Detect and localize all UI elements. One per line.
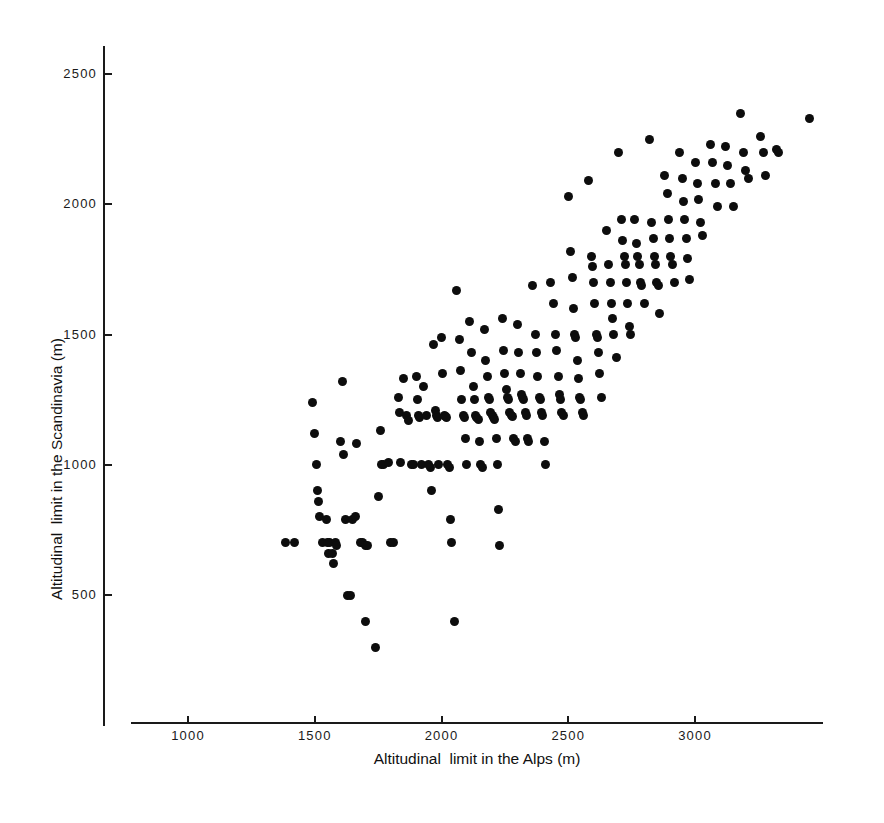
data-point [507,411,516,420]
data-point [361,617,370,626]
data-point [486,408,495,417]
data-point [570,330,579,339]
data-point [462,460,471,469]
data-point [500,369,509,378]
data-point [594,348,603,357]
data-point [678,174,687,183]
data-point [363,541,372,550]
data-point [556,395,565,404]
data-point [654,281,663,290]
data-point [394,393,403,402]
data-point [756,132,765,141]
y-tick-label: 1000 [37,457,97,472]
data-point [490,415,499,424]
data-point [664,215,673,224]
data-point [555,390,564,399]
data-point [517,390,526,399]
data-point [682,234,691,243]
data-point [604,260,613,269]
data-point [524,437,533,446]
data-point [361,541,370,550]
data-point [522,411,531,420]
data-point [546,278,555,287]
data-point [593,333,602,342]
data-point [446,515,455,524]
data-point [427,486,436,495]
data-point [632,239,641,248]
x-tick-3000 [694,716,696,723]
data-point [511,437,520,446]
data-point [623,299,632,308]
data-point [533,372,542,381]
data-point [636,278,645,287]
data-point [569,304,578,313]
data-point [476,460,485,469]
data-point [519,395,528,404]
data-point [328,549,337,558]
data-point [584,176,593,185]
data-point [541,460,550,469]
data-point [422,411,431,420]
data-point [551,330,560,339]
data-point [281,538,290,547]
data-point [470,395,479,404]
data-point [739,148,748,157]
data-point [606,278,615,287]
data-point [358,538,367,547]
data-point [374,492,383,501]
data-point [680,215,689,224]
y-tick-label: 2000 [37,196,97,211]
data-point [440,411,449,420]
data-point [324,549,333,558]
data-point [696,218,705,227]
data-point [424,460,433,469]
data-point [457,395,466,404]
data-point [445,463,454,472]
data-point [685,275,694,284]
data-point [514,348,523,357]
data-point [693,179,702,188]
data-point [399,374,408,383]
data-point [509,434,518,443]
data-point [564,192,573,201]
data-point [621,260,630,269]
data-point [650,252,659,261]
data-point [557,408,566,417]
data-point [389,538,398,547]
data-point [568,273,577,282]
data-point [723,161,732,170]
y-tick-2500 [105,73,112,75]
data-point [602,226,611,235]
data-point [414,411,423,420]
data-point [670,278,679,287]
data-point [478,463,487,472]
data-point [575,393,584,402]
data-point [426,463,435,472]
data-point [471,411,480,420]
data-point [521,408,530,417]
data-point [607,299,616,308]
data-point [456,366,465,375]
data-point [441,412,450,421]
data-point [472,413,481,422]
data-point [343,591,352,600]
data-point [649,234,658,243]
data-point [668,260,677,269]
data-point [666,252,675,261]
data-point [513,320,522,329]
data-point [437,333,446,342]
data-point [516,369,525,378]
y-tick-label: 2500 [37,66,97,81]
data-point [313,486,322,495]
data-point [413,395,422,404]
data-point [371,643,380,652]
data-point [647,218,656,227]
data-point [315,512,324,521]
data-point [495,541,504,550]
data-point [348,515,357,524]
data-point [429,340,438,349]
x-tick-label: 2500 [528,728,608,743]
data-point [617,215,626,224]
data-point [452,286,461,295]
data-point [318,538,327,547]
